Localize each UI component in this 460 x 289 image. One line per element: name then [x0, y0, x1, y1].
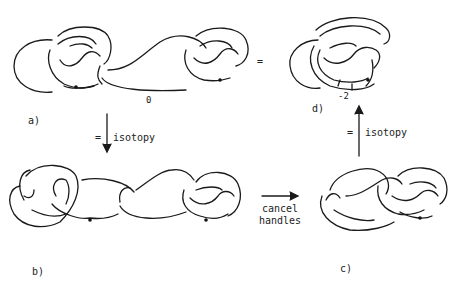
panel-b-label: b) [32, 267, 44, 277]
panel-a-label: a) [28, 116, 40, 126]
handles-label: handles [259, 216, 301, 226]
arrow-a-to-b [103, 114, 111, 152]
isotopy-label-c-d: isotopy [365, 128, 407, 138]
panel-a-diagram [14, 27, 248, 92]
panel-d-diagram [290, 18, 390, 90]
equals-sign-a-b: = [95, 133, 101, 143]
cancel-label: cancel [262, 204, 298, 214]
diagram-svg [0, 0, 460, 289]
equals-sign-a-d: = [257, 57, 263, 67]
panel-c-label: c) [340, 264, 352, 274]
knot-diagram-figure: a) 0 b) c) d) -2 = isotopy cancel handle… [0, 0, 460, 289]
panel-b-diagram [10, 165, 241, 226]
arrow-b-to-c [262, 192, 298, 200]
isotopy-label-a-b: isotopy [113, 133, 155, 143]
panel-d-framing: -2 [338, 92, 349, 101]
panel-d-label: d) [312, 104, 324, 114]
arrow-c-to-d [355, 106, 363, 156]
panel-a-framing: 0 [146, 96, 151, 105]
equals-sign-c-d: = [347, 128, 353, 138]
panel-c-diagram [321, 168, 447, 230]
